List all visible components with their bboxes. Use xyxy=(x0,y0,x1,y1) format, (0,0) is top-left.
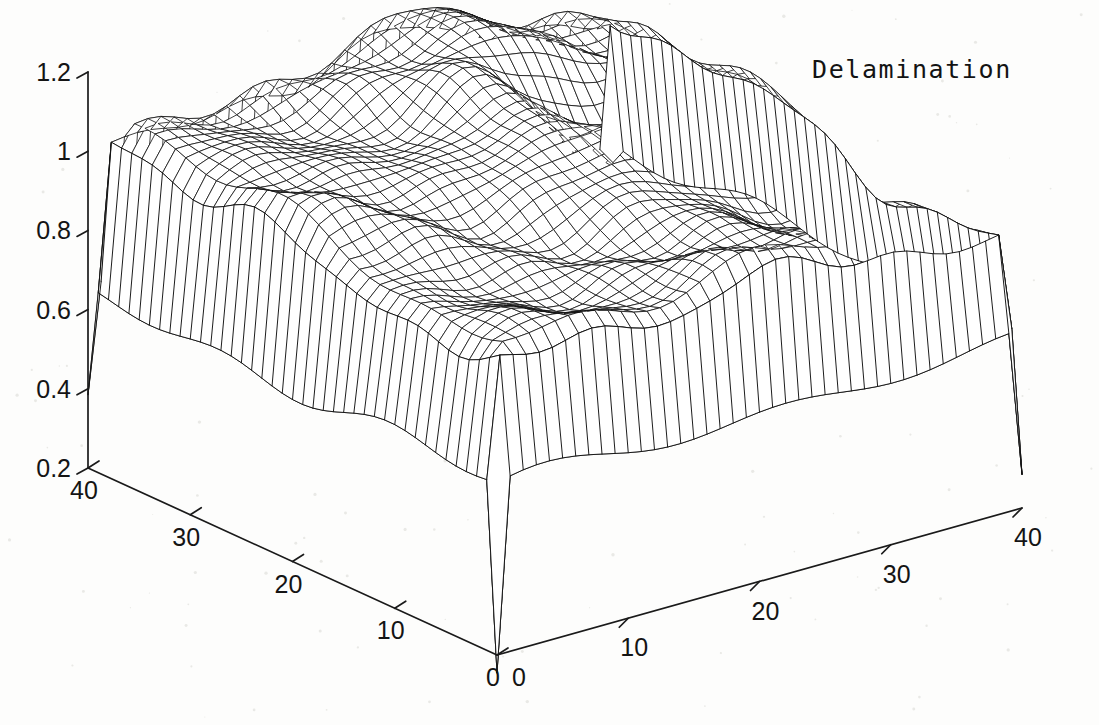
z-tick xyxy=(77,151,88,157)
x-tick-label: 10 xyxy=(620,633,648,661)
y-tick-label: 10 xyxy=(377,616,405,644)
y-tick xyxy=(190,508,201,515)
z-tick xyxy=(77,468,88,474)
x-tick-label: 40 xyxy=(1014,523,1042,551)
y-tick-label: 40 xyxy=(70,476,98,504)
z-tick-label: 1 xyxy=(57,137,71,165)
y-tick-label: 30 xyxy=(172,523,200,551)
z-tick-label: 0.8 xyxy=(36,216,71,244)
y-tick-label: 20 xyxy=(275,570,303,598)
y-tick xyxy=(293,555,304,562)
z-tick-label: 0.6 xyxy=(36,296,71,324)
surface-plot-svg: Delamination 0.20.40.60.811.201020304001… xyxy=(0,0,1099,725)
plot-title: Delamination xyxy=(812,55,1012,84)
z-tick-label: 1.2 xyxy=(36,58,71,86)
x-tick-label: 20 xyxy=(752,597,780,625)
figure-canvas: Delamination 0.20.40.60.811.201020304001… xyxy=(0,0,1099,725)
z-tick xyxy=(77,230,88,236)
z-tick xyxy=(77,310,88,316)
z-tick-label: 0.2 xyxy=(36,454,71,482)
y-tick xyxy=(88,461,99,468)
y-tick xyxy=(395,601,406,608)
z-tick xyxy=(77,389,88,395)
z-tick-label: 0.4 xyxy=(36,375,71,403)
z-tick xyxy=(77,72,88,78)
x-tick-label: 0 xyxy=(512,663,526,691)
y-tick-label: 0 xyxy=(486,663,500,691)
x-tick-label: 30 xyxy=(883,560,911,588)
